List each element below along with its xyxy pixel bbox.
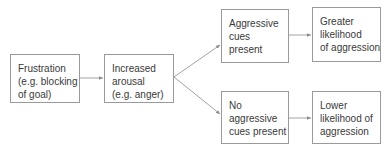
node-frustration: Frustration (e.g. blocking of goal) (10, 54, 80, 103)
node-text: arousal (112, 75, 173, 88)
node-text: of aggression (320, 41, 380, 54)
node-text: Lower (320, 99, 380, 112)
node-text: (e.g. blocking (18, 75, 79, 88)
node-no-aggressive-cues: No aggressive cues present (221, 91, 289, 144)
node-arousal: Increased arousal (e.g. anger) (104, 54, 174, 103)
arrow-arousal-to-cues (174, 45, 220, 77)
node-aggressive-cues-present: Aggressive cues present (221, 9, 289, 63)
node-text: Greater (320, 15, 380, 28)
node-text: aggressive (229, 112, 288, 125)
arrow-arousal-to-no-cues (174, 77, 220, 114)
node-text: likelihood of (320, 112, 380, 125)
node-text: Aggressive (229, 17, 288, 30)
node-text: cues (229, 30, 288, 43)
node-text: Frustration (18, 62, 79, 75)
node-lower-likelihood: Lower likelihood of aggression (312, 91, 381, 144)
node-text: (e.g. anger) (112, 88, 173, 101)
node-text: present (229, 43, 288, 56)
node-text: No (229, 99, 288, 112)
node-text: cues present (229, 125, 288, 138)
node-text: aggression (320, 125, 380, 138)
node-text: of goal) (18, 88, 79, 101)
node-text: Increased (112, 62, 173, 75)
node-greater-likelihood: Greater likelihood of aggression (312, 7, 381, 62)
node-text: likelihood (320, 28, 380, 41)
